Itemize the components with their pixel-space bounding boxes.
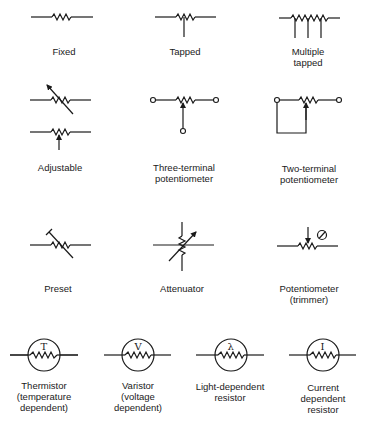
preset-resistor-symbol: [30, 229, 91, 258]
label-multiple-tapped: Multiple tapped: [253, 46, 363, 68]
label-potentiometer-trimmer: Potentiometer (trimmer): [254, 283, 364, 305]
tapped-resistor-symbol: [155, 14, 216, 37]
attenuator-symbol: [153, 222, 214, 271]
fixed-resistor-symbol: [31, 14, 93, 20]
lambda-glyph: λ: [228, 341, 235, 352]
three-terminal-potentiometer-symbol: [151, 97, 219, 134]
thermistor-symbol: T: [10, 339, 78, 371]
label-three-terminal-potentiometer: Three-terminal potentiometer: [129, 162, 239, 184]
current-glyph: I: [321, 341, 325, 352]
multiple-tapped-resistor-symbol: [279, 15, 340, 38]
voltage-glyph: V: [134, 341, 143, 352]
adjustable-resistor-symbol: [30, 85, 91, 150]
label-attenuator: Attenuator: [127, 283, 237, 294]
label-adjustable: Adjustable: [5, 162, 115, 173]
label-tapped: Tapped: [130, 46, 240, 57]
potentiometer-trimmer-symbol: [277, 227, 338, 249]
label-preset: Preset: [3, 283, 113, 294]
current-dependent-resistor-symbol: I: [289, 339, 356, 371]
label-fixed: Fixed: [9, 46, 119, 57]
temperature-glyph: T: [41, 341, 48, 352]
label-two-terminal-potentiometer: Two-terminal potentiometer: [254, 163, 364, 185]
two-terminal-potentiometer-symbol: [275, 97, 342, 133]
varistor-symbol: V: [104, 339, 171, 371]
label-current-dependent-resistor: Current dependent resistor: [268, 382, 375, 415]
light-dependent-resistor-symbol: λ: [196, 339, 264, 371]
